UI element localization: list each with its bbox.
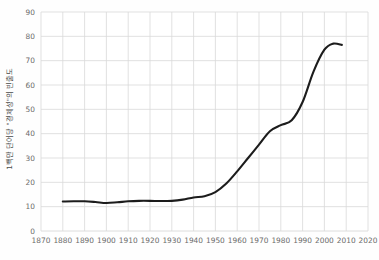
x-tick-label: 1920 (141, 236, 160, 245)
y-tick-label: 20 (26, 178, 36, 187)
plot-background (41, 12, 368, 231)
x-tick-label: 2000 (315, 236, 334, 245)
line-chart: 1백만 단어당 "경제성"의 빈출도 0102030405060708090 1… (0, 0, 379, 260)
y-tick-label: 30 (26, 154, 36, 163)
y-axis-tick-labels: 0102030405060708090 (26, 8, 36, 236)
y-tick-label: 60 (26, 81, 36, 90)
x-tick-label: 2010 (337, 236, 356, 245)
x-tick-label: 1910 (119, 236, 138, 245)
y-tick-label: 50 (26, 105, 36, 114)
x-tick-label: 1940 (184, 236, 203, 245)
x-tick-label: 1980 (271, 236, 290, 245)
y-tick-label: 10 (26, 202, 36, 211)
x-tick-label: 1930 (162, 236, 181, 245)
x-tick-label: 1960 (228, 236, 247, 245)
x-tick-label: 1900 (97, 236, 116, 245)
x-tick-label: 1990 (293, 236, 312, 245)
y-tick-label: 80 (26, 32, 36, 41)
x-axis-tick-labels: 1870188018901900191019201930194019501960… (32, 236, 378, 245)
x-tick-label: 1880 (53, 236, 72, 245)
x-tick-label: 2020 (359, 236, 378, 245)
x-tick-label: 1890 (75, 236, 94, 245)
plot-svg: 0102030405060708090 18701880189019001910… (0, 0, 379, 260)
x-tick-label: 1950 (206, 236, 225, 245)
x-tick-label: 1970 (250, 236, 269, 245)
y-tick-label: 70 (26, 56, 36, 65)
y-tick-label: 0 (30, 227, 35, 236)
y-tick-label: 90 (26, 8, 36, 17)
x-tick-label: 1870 (32, 236, 51, 245)
y-tick-label: 40 (26, 129, 36, 138)
